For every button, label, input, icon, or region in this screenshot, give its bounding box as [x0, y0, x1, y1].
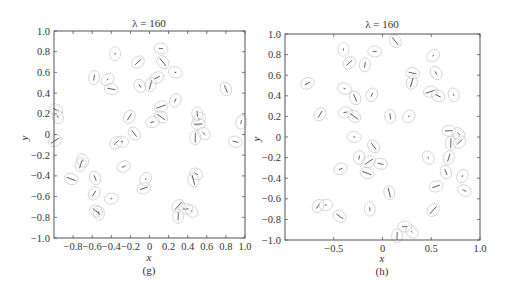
y-tick-label: −0.2: [262, 152, 281, 163]
data-marker: [382, 184, 396, 200]
panel-h-axes-frame: [285, 34, 480, 240]
data-marker: [318, 198, 334, 211]
y-tick-label: −0.6: [262, 193, 281, 204]
y-tick-label: −0.4: [262, 173, 282, 184]
data-marker: [424, 47, 442, 64]
data-marker: [299, 75, 316, 91]
data-marker: [456, 182, 474, 198]
data-marker: [447, 87, 461, 103]
data-marker: [195, 125, 213, 143]
data-marker: [87, 169, 102, 186]
data-marker: [441, 149, 456, 166]
data-marker: [129, 53, 147, 71]
x-tick-label: 0.5: [425, 243, 438, 254]
data-marker: [336, 81, 353, 96]
y-tick-label: 0.4: [37, 88, 51, 99]
data-marker: [367, 46, 382, 58]
y-tick-label: 1.0: [268, 29, 281, 40]
data-marker: [190, 131, 201, 145]
data-marker: [107, 134, 125, 152]
data-marker: [428, 64, 445, 82]
data-marker: [364, 202, 376, 217]
x-tick-label: 0.2: [162, 241, 175, 252]
data-marker: [167, 92, 183, 109]
data-marker: [403, 223, 421, 241]
data-marker: [172, 209, 183, 223]
data-marker: [114, 136, 129, 148]
y-tick-label: 0.8: [37, 46, 50, 57]
data-marker: [358, 57, 371, 72]
data-marker: [424, 201, 441, 219]
y-tick-label: 1.0: [37, 26, 50, 37]
x-tick-label: −0.8: [64, 241, 83, 252]
x-tick-label: −0.4: [102, 241, 122, 252]
y-tick-label: 0: [276, 132, 281, 143]
data-marker: [347, 131, 362, 143]
data-marker: [445, 136, 456, 150]
data-marker: [154, 53, 171, 71]
data-marker: [405, 74, 419, 90]
data-marker: [364, 86, 380, 103]
data-marker: [227, 135, 243, 149]
data-marker: [63, 171, 80, 186]
data-marker: [138, 170, 154, 187]
data-marker: [338, 42, 349, 56]
x-tick-label: 1.0: [473, 243, 486, 254]
x-tick-label: −0.6: [83, 241, 102, 252]
data-marker: [391, 229, 402, 243]
y-tick-label: 0.6: [268, 70, 281, 81]
y-tick-label: 0.8: [268, 49, 281, 60]
panel-g-y-ticks: 1.00.80.60.40.20−0.2−0.4−0.6−0.8−1.0: [31, 26, 245, 244]
data-marker: [331, 208, 349, 225]
panel-h-title: λ = 160: [365, 18, 399, 30]
data-marker: [332, 161, 349, 177]
data-marker: [347, 89, 363, 106]
data-marker: [337, 106, 353, 119]
data-marker: [93, 206, 105, 221]
data-marker: [87, 202, 105, 219]
panel-g-title: λ = 160: [132, 17, 166, 29]
data-marker: [88, 70, 101, 85]
data-marker: [428, 179, 445, 194]
x-tick-label: −0.5: [324, 243, 343, 254]
data-marker: [365, 137, 382, 155]
data-marker: [422, 84, 439, 99]
panel-h-y-ticks: 1.00.80.60.40.20−0.2−0.4−0.6−0.8−1.0: [262, 29, 480, 246]
y-tick-label: −0.2: [31, 150, 50, 161]
data-marker: [454, 167, 470, 184]
y-tick-label: −0.6: [31, 191, 50, 202]
y-tick-label: −0.8: [262, 214, 281, 225]
y-tick-label: −0.4: [31, 170, 51, 181]
y-tick-label: 0.4: [268, 90, 282, 101]
data-marker: [152, 108, 170, 125]
data-marker: [420, 149, 437, 167]
data-marker: [132, 77, 149, 95]
data-marker: [438, 163, 453, 180]
data-marker: [144, 115, 160, 128]
figure: λ = 160 1.00.80.60.40.20−0.2−0.4−0.6−0.8…: [0, 0, 510, 299]
data-marker: [387, 32, 404, 50]
data-marker: [358, 165, 375, 180]
data-marker: [353, 150, 366, 166]
panel-h-caption: (h): [376, 265, 389, 278]
data-marker: [218, 80, 234, 97]
data-marker: [384, 109, 397, 124]
data-marker: [99, 71, 117, 88]
panel-g-markers: [46, 43, 248, 224]
data-marker: [345, 108, 363, 125]
panel-g-y-label: y: [18, 135, 30, 141]
data-marker: [73, 156, 88, 173]
data-marker: [191, 118, 206, 130]
y-tick-label: −1.0: [262, 235, 281, 246]
y-tick-label: 0.2: [37, 108, 50, 119]
x-tick-label: 0.4: [181, 241, 195, 252]
y-tick-label: −1.0: [31, 233, 50, 244]
data-marker: [167, 65, 184, 80]
panel-h: λ = 160 1.00.80.60.40.20−0.2−0.4−0.6−0.8…: [250, 18, 487, 278]
data-marker: [400, 108, 417, 126]
data-marker: [183, 202, 201, 220]
panel-h-x-label: x: [379, 252, 385, 264]
data-marker: [169, 197, 186, 215]
data-marker: [442, 125, 457, 137]
data-marker: [103, 192, 119, 205]
